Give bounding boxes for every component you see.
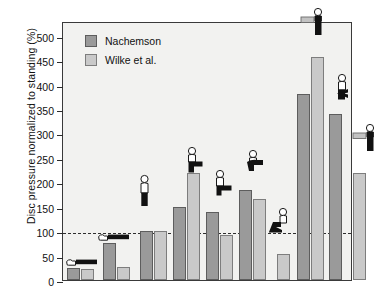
- y-tick-label-150: 150: [36, 203, 54, 215]
- posture-lying-supine-icon: [65, 256, 99, 268]
- bar-standing-nachemson: [140, 231, 153, 280]
- y-tick-label-300: 300: [36, 129, 54, 141]
- y-tick-150: [57, 209, 63, 210]
- bar-lifting-straight-wilke: [311, 57, 324, 280]
- posture-standing-icon: [138, 175, 151, 207]
- posture-lying-side-icon: [97, 231, 131, 243]
- plot-area: 500450400350300250200150100500: [62, 22, 352, 281]
- bar-lying-side-wilke: [117, 267, 130, 280]
- legend: Nachemson Wilke et al.: [85, 35, 161, 73]
- bar-sitting-slouched-wilke: [277, 254, 290, 280]
- posture-sitting-slouched-icon: [268, 208, 292, 234]
- bar-standing-bent-nachemson: [173, 207, 186, 280]
- bar-sitting-bent-wilke: [253, 199, 266, 280]
- bar-lying-side-nachemson: [103, 243, 116, 280]
- bar-lifting-bent-nachemson: [329, 114, 342, 280]
- y-tick-label-0: 0: [48, 276, 54, 288]
- y-tick-label-250: 250: [36, 154, 54, 166]
- y-tick-50: [57, 258, 63, 259]
- posture-sitting-bent-icon: [243, 150, 265, 176]
- legend-label-nachemson: Nachemson: [105, 35, 161, 47]
- y-tick-label-450: 450: [36, 56, 54, 68]
- y-tick-label-500: 500: [36, 32, 54, 44]
- bar-sitting-bent-nachemson: [239, 190, 252, 280]
- legend-label-wilke: Wilke et al.: [105, 54, 156, 66]
- posture-sitting-relaxed-icon: [213, 170, 233, 196]
- posture-standing-bent-icon: [183, 147, 205, 173]
- bar-lying-supine-nachemson: [67, 268, 80, 280]
- posture-lifting-bent-icon: [331, 74, 353, 102]
- bar-holding-weight-wilke: [353, 173, 366, 280]
- posture-lifting-straight-icon: [301, 8, 327, 36]
- y-tick-label-200: 200: [36, 178, 54, 190]
- y-tick-200: [57, 184, 63, 185]
- legend-item-wilke: Wilke et al.: [85, 54, 161, 66]
- nachemson-swatch: [85, 35, 97, 47]
- y-tick-350: [57, 111, 63, 112]
- bar-lying-supine-wilke: [81, 269, 94, 280]
- y-tick-label-400: 400: [36, 81, 54, 93]
- y-axis-title: Disc pressure normalized to standing (%): [25, 1, 37, 251]
- plot-inner: 500450400350300250200150100500: [63, 23, 351, 280]
- y-tick-label-50: 50: [42, 252, 54, 264]
- y-tick-400: [57, 87, 63, 88]
- y-tick-450: [57, 62, 63, 63]
- y-tick-0: [57, 282, 63, 283]
- bar-lifting-straight-nachemson: [297, 94, 310, 280]
- bar-standing-bent-wilke: [187, 173, 200, 281]
- y-tick-label-100: 100: [36, 227, 54, 239]
- legend-item-nachemson: Nachemson: [85, 35, 161, 47]
- bar-sitting-relaxed-nachemson: [206, 212, 219, 280]
- y-tick-500: [57, 38, 63, 39]
- bar-sitting-relaxed-wilke: [220, 235, 233, 280]
- bar-standing-wilke: [154, 231, 167, 280]
- y-tick-300: [57, 135, 63, 136]
- y-tick-250: [57, 160, 63, 161]
- posture-holding-weight-icon: [353, 124, 378, 152]
- y-tick-label-350: 350: [36, 105, 54, 117]
- wilke-swatch: [85, 54, 97, 66]
